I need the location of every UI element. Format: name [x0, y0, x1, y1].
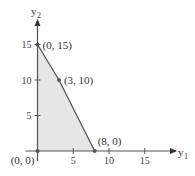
- vertex-marker: [36, 149, 40, 153]
- chart-canvas: 5101551015 (0, 15)(3, 10)(8, 0)(0, 0) y …: [0, 0, 195, 176]
- y-tick-label: 5: [27, 110, 32, 121]
- y-tick-label: 15: [22, 39, 32, 50]
- y-tick-label: 10: [22, 75, 32, 86]
- x-tick-label: 15: [140, 155, 150, 166]
- x-tick-label: 10: [104, 155, 114, 166]
- vertex-marker: [93, 149, 97, 153]
- svg-text:2: 2: [37, 11, 41, 20]
- vertex-label: (3, 10): [64, 74, 94, 87]
- vertex-marker: [57, 78, 61, 82]
- vertex-marker: [36, 43, 40, 47]
- x-tick-label: 5: [71, 155, 76, 166]
- x-axis-label: y 1: [178, 146, 188, 161]
- vertex-label: (0, 0): [11, 154, 35, 167]
- vertex-label: (0, 15): [43, 39, 73, 52]
- y-axis-label: y 2: [31, 5, 41, 20]
- vertex-label: (8, 0): [98, 135, 122, 148]
- feasible-region: [38, 45, 95, 152]
- svg-text:1: 1: [184, 152, 188, 161]
